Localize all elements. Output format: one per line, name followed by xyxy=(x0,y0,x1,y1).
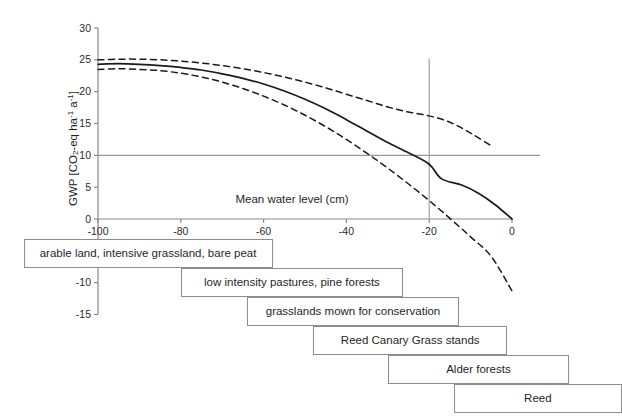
reed-box: Reed xyxy=(454,384,622,413)
y-tick-label: 30 xyxy=(79,22,91,34)
x-tick-label: -100 xyxy=(87,225,108,237)
x-tick-label: 0 xyxy=(509,225,515,237)
y-tick-label: -10 xyxy=(76,276,91,288)
y-tick-label: 15 xyxy=(79,117,91,129)
x-tick-label: -40 xyxy=(339,225,354,237)
reed-canary-grass-box: Reed Canary Grass stands xyxy=(313,326,507,355)
y-tick-label: 5 xyxy=(85,181,91,193)
category-box-label: grasslands mown for conservation xyxy=(266,306,441,318)
low-intensity-pastures-box: low intensity pastures, pine forests xyxy=(181,268,403,297)
x-axis-title: Mean water level (cm) xyxy=(235,193,348,205)
y-tick-label: -15 xyxy=(76,308,91,320)
x-tick-label: -20 xyxy=(422,225,437,237)
arable-land-box: arable land, intensive grassland, bare p… xyxy=(24,239,273,268)
category-box-label: arable land, intensive grassland, bare p… xyxy=(40,248,257,260)
category-box-label: Alder forests xyxy=(446,364,511,376)
y-tick-label: 10 xyxy=(79,149,91,161)
category-box-label: Reed Canary Grass stands xyxy=(341,335,480,347)
y-tick-label: 0 xyxy=(85,213,91,225)
alder-forests-box: Alder forests xyxy=(388,355,569,384)
x-tick-label: -80 xyxy=(173,225,188,237)
y-tick-label: 25 xyxy=(79,53,91,65)
y-tick-label: 20 xyxy=(79,85,91,97)
category-box-label: Reed xyxy=(524,393,552,405)
x-tick-label: -60 xyxy=(256,225,271,237)
upper-confidence-band-line xyxy=(98,59,491,146)
category-box-label: low intensity pastures, pine forests xyxy=(204,277,380,289)
grasslands-conservation-box: grasslands mown for conservation xyxy=(247,297,459,326)
